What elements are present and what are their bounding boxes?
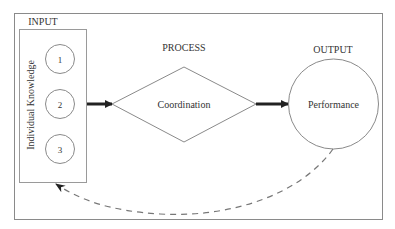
process-group: PROCESS Coordination	[112, 42, 256, 142]
coordination-label: Coordination	[158, 99, 211, 110]
knowledge-item-2-label: 2	[58, 100, 63, 110]
input-heading: INPUT	[28, 16, 57, 27]
knowledge-item-1-label: 1	[58, 55, 63, 65]
feedback-arrow-output-to-input	[56, 149, 333, 214]
performance-label: Performance	[308, 99, 360, 110]
output-group: OUTPUT Performance	[289, 44, 379, 149]
output-heading: OUTPUT	[313, 44, 352, 55]
knowledge-item-3-label: 3	[58, 145, 63, 155]
ipo-diagram: INPUT Individual Knowledge 1 2 3 PROCESS…	[0, 0, 395, 229]
process-heading: PROCESS	[162, 42, 205, 53]
input-group: INPUT Individual Knowledge 1 2 3	[20, 16, 87, 183]
individual-knowledge-label: Individual Knowledge	[25, 60, 36, 150]
